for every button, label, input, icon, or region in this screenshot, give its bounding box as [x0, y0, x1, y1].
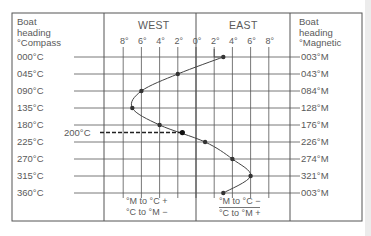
x-tick-label: 8°: [265, 36, 274, 46]
x-tick-label: 2°: [211, 36, 220, 46]
east-label: EAST: [229, 19, 258, 31]
compass-header: Boat heading °Compass: [17, 17, 61, 49]
data-point: [139, 89, 143, 93]
west-footnote-line1: °M to °C +: [126, 196, 167, 207]
magnetic-heading-label: 003°M: [300, 51, 329, 62]
data-point: [248, 174, 252, 178]
magnetic-heading-label: 128°M: [300, 102, 329, 113]
magnetic-header-line3: °Magnetic: [299, 38, 341, 49]
compass-header-line3: °Compass: [17, 38, 61, 49]
magnetic-heading-label: 043°M: [300, 68, 329, 79]
compass-heading-label: 225°C: [17, 136, 45, 147]
data-point: [203, 140, 207, 144]
east-footnote-line2: °C to °M +: [219, 208, 260, 219]
x-tick-label: 2°: [174, 36, 183, 46]
annotation-label: 200°C: [64, 127, 91, 138]
west-footnote: °M to °C + °C to °M −: [126, 196, 167, 218]
data-point: [176, 72, 180, 76]
west-footnote-line2: °C to °M −: [126, 207, 167, 218]
compass-heading-label: 135°C: [17, 102, 45, 113]
x-tick-label: 6°: [138, 36, 147, 46]
west-label: WEST: [138, 19, 170, 31]
x-tick-label: 8°: [120, 36, 129, 46]
magnetic-heading-label: 176°M: [300, 119, 329, 130]
compass-heading-label: 180°C: [17, 119, 45, 130]
compass-header-line1: Boat: [17, 17, 61, 28]
magnetic-heading-label: 321°M: [300, 170, 329, 181]
data-point: [157, 123, 161, 127]
data-point: [221, 191, 225, 195]
data-point: [130, 106, 134, 110]
compass-heading-label: 090°C: [17, 85, 45, 96]
compass-heading-label: 045°C: [17, 68, 45, 79]
east-footnote-line1: °M to °C −: [219, 196, 260, 208]
annotation-point: [180, 130, 185, 135]
page-edge-shadow: [365, 0, 371, 236]
compass-heading-label: 270°C: [17, 153, 45, 164]
east-footnote: °M to °C − °C to °M +: [219, 196, 260, 219]
x-tick-label: 0°: [193, 36, 202, 46]
compass-heading-label: 360°C: [17, 187, 45, 198]
magnetic-heading-label: 003°M: [300, 187, 329, 198]
data-point: [230, 157, 234, 161]
x-tick-label: 4°: [229, 36, 238, 46]
magnetic-heading-label: 084°M: [300, 85, 329, 96]
x-tick-label: 6°: [247, 36, 256, 46]
compass-heading-label: 000°C: [17, 51, 45, 62]
magnetic-heading-label: 274°M: [300, 153, 329, 164]
compass-heading-label: 315°C: [17, 170, 45, 181]
magnetic-heading-label: 226°M: [300, 136, 329, 147]
magnetic-header-line1: Boat: [299, 17, 341, 28]
magnetic-header: Boat heading °Magnetic: [299, 17, 341, 49]
x-tick-label: 4°: [156, 36, 165, 46]
